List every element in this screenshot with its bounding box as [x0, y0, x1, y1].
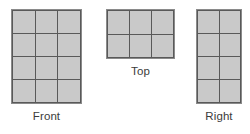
grid-cell — [36, 80, 58, 102]
grid-cell — [58, 57, 80, 79]
top-view: Top — [106, 9, 175, 59]
grid-cell — [108, 11, 129, 34]
grid-cell — [36, 34, 58, 56]
grid-cell — [130, 11, 151, 34]
grid-cell — [152, 35, 173, 58]
grid-cell — [130, 35, 151, 58]
front-view-grid — [11, 9, 82, 104]
grid-cell — [13, 11, 35, 33]
grid-cell — [198, 57, 219, 79]
grid-cell — [108, 35, 129, 58]
grid-cell — [58, 80, 80, 102]
grid-cell — [58, 34, 80, 56]
top-view-label: Top — [131, 64, 150, 78]
right-view-label: Right — [205, 109, 232, 123]
grid-cell — [198, 11, 219, 33]
right-view-grid — [196, 9, 242, 104]
grid-cell — [13, 80, 35, 102]
orthographic-views-figure: Front Top Right — [0, 0, 250, 134]
grid-cell — [198, 80, 219, 102]
grid-cell — [36, 11, 58, 33]
top-view-grid — [106, 9, 175, 59]
grid-cell — [220, 11, 241, 33]
grid-cell — [13, 34, 35, 56]
grid-cell — [36, 57, 58, 79]
front-view-label: Front — [33, 109, 60, 123]
grid-cell — [220, 34, 241, 56]
grid-cell — [198, 34, 219, 56]
front-view: Front — [11, 9, 82, 104]
grid-cell — [220, 57, 241, 79]
grid-cell — [13, 57, 35, 79]
right-view: Right — [196, 9, 242, 104]
grid-cell — [152, 11, 173, 34]
grid-cell — [220, 80, 241, 102]
grid-cell — [58, 11, 80, 33]
